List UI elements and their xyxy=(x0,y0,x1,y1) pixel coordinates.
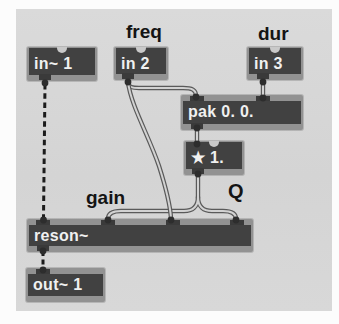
max-patch-screenshot: freq dur gain Q in~ 1 in 2 in 3 pak 0. 0… xyxy=(0,0,339,324)
cord-in2-to-pak[interactable] xyxy=(128,82,196,96)
signal-cord-in1-to-reson[interactable] xyxy=(44,84,46,218)
cord-in2-to-reson[interactable] xyxy=(128,82,171,218)
patch-cords-layer xyxy=(0,0,339,324)
cord-endpoints xyxy=(40,79,267,274)
